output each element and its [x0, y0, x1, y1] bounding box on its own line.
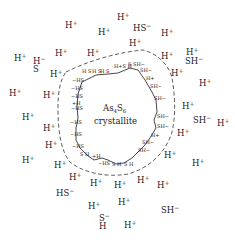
svg-text:SH−: SH−: [157, 113, 169, 119]
ion-label: H+: [161, 50, 173, 62]
ion-label: H+: [43, 122, 55, 134]
svg-text:S H: S H: [112, 161, 122, 167]
ion-label: S: [33, 64, 39, 74]
ion-label: H+: [118, 196, 130, 208]
svg-text:SH−: SH−: [140, 67, 152, 73]
svg-text:H+: H+: [151, 132, 160, 138]
svg-text:−HS: −HS: [71, 105, 84, 111]
svg-text:−HS: −HS: [70, 131, 83, 137]
ion-label: H+: [45, 139, 57, 151]
ion-label: H+: [217, 117, 229, 129]
ion-label: H: [99, 221, 106, 231]
ion-label: H+: [129, 37, 141, 49]
svg-text:−HS: −HS: [71, 93, 84, 99]
svg-text:H S: H S: [100, 68, 110, 74]
ion-label: H+: [171, 67, 183, 79]
ion-label: H+: [88, 200, 100, 212]
ion-label: H+: [87, 47, 99, 59]
ion-label: HS−: [56, 187, 74, 199]
svg-text:SH−: SH−: [138, 147, 150, 153]
ion-label: H+: [22, 154, 34, 166]
ion-label: H+: [177, 127, 189, 139]
ion-label: SH−: [185, 55, 203, 67]
ion-label: H+: [192, 157, 204, 169]
svg-text:H S: H S: [82, 68, 92, 74]
ion-label: H+: [124, 219, 136, 231]
ion-label: SH−: [161, 204, 179, 216]
ion-label: H+: [117, 11, 129, 23]
adsorption-diagram: As4S6 crystallite −HS −HS −HS +H −HS −HS…: [0, 0, 235, 240]
svg-text:SH−: SH−: [142, 139, 154, 145]
svg-text:−HS: −HS: [70, 119, 83, 125]
svg-text:−HS: −HS: [72, 143, 85, 149]
svg-text:+H: +H: [92, 153, 101, 159]
ion-label: H+: [182, 100, 194, 112]
svg-text:−HS: −HS: [71, 85, 84, 91]
svg-text:S H: S H: [124, 161, 134, 167]
ion-label: HS−: [133, 22, 151, 34]
ion-label: H+: [9, 87, 21, 99]
ion-label: H+: [98, 26, 110, 38]
ion-label: H+: [22, 111, 34, 123]
ion-label: H+: [69, 171, 81, 183]
svg-text:SH−: SH−: [154, 95, 166, 101]
crystallite-label: crystallite: [94, 116, 137, 126]
ion-label: H+: [137, 174, 149, 186]
ion-label: H+: [65, 19, 77, 31]
svg-text:−HS: −HS: [98, 160, 111, 166]
ion-label: H+: [90, 177, 102, 189]
ion-label: H+: [164, 149, 176, 161]
ion-label: H+: [54, 159, 66, 171]
svg-text:SH−: SH−: [150, 83, 162, 89]
ion-label: H+: [50, 68, 62, 80]
ion-label: H+: [43, 89, 55, 101]
svg-text:−HS: −HS: [72, 77, 85, 83]
ion-label: H+: [157, 179, 169, 191]
surface-groups: −HS −HS −HS +H −HS −HS −HS −HS S H +H −H…: [70, 61, 169, 167]
ion-label: H+: [14, 52, 26, 64]
ion-label: SH−: [193, 114, 211, 126]
ion-label: H+: [55, 47, 67, 59]
ion-label: H+: [161, 27, 173, 39]
svg-text:S H: S H: [80, 151, 90, 157]
crystallite-formula: As4S6: [102, 103, 127, 114]
ion-label: H+: [114, 179, 126, 191]
svg-text:SH−: SH−: [157, 123, 169, 129]
ion-label: H+: [199, 77, 211, 89]
svg-text:H+: H+: [146, 75, 155, 81]
